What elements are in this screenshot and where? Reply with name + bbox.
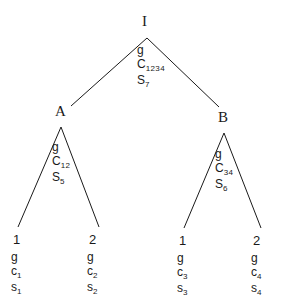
leaf-3-gene-label: g — [177, 251, 188, 265]
leaf-labels-2: g c2 s2 — [87, 250, 98, 296]
leaf-number-3: 1 — [179, 234, 186, 247]
a-gene-label: g — [52, 140, 70, 154]
root-gene-label: g — [137, 43, 165, 57]
leaf-2-gene-label: g — [87, 250, 98, 264]
b-c-label: C34 — [215, 161, 233, 177]
leaf-1-gene-label: g — [11, 250, 22, 264]
leaf-labels-4: g c4 s4 — [251, 251, 262, 297]
leaf-1-s-label: s1 — [11, 280, 22, 296]
leaf-labels-1: g c1 s1 — [11, 250, 22, 296]
leaf-2-s-label: s2 — [87, 280, 98, 296]
leaf-number-4: 2 — [253, 234, 260, 247]
edge-root-to-a — [71, 38, 147, 106]
root-c-label: C1234 — [137, 57, 165, 73]
b-gene-label: g — [215, 147, 233, 161]
branch-labels-a: g C12 S5 — [52, 140, 70, 186]
leaf-4-gene-label: g — [251, 251, 262, 265]
leaf-1-c-label: c1 — [11, 264, 22, 280]
b-s-label: S6 — [215, 177, 233, 193]
leaf-3-s-label: s3 — [177, 281, 188, 297]
leaf-number-2: 2 — [89, 233, 96, 246]
leaf-number-1: 1 — [13, 233, 20, 246]
leaf-labels-3: g c3 s3 — [177, 251, 188, 297]
branch-labels-b: g C34 S6 — [215, 147, 233, 193]
branch-labels-root: g C1234 S7 — [137, 43, 165, 89]
leaf-2-c-label: c2 — [87, 264, 98, 280]
a-s-label: S5 — [52, 170, 70, 186]
phylogenetic-tree-diagram: I g C1234 S7 A g C12 S5 B g C34 S6 1 g c… — [0, 0, 284, 304]
leaf-3-c-label: c3 — [177, 265, 188, 281]
leaf-4-c-label: c4 — [251, 265, 262, 281]
root-s-label: S7 — [137, 73, 165, 89]
node-label-a: A — [55, 104, 66, 119]
node-label-b: B — [218, 110, 228, 125]
node-label-root: I — [142, 14, 147, 29]
a-c-label: C12 — [52, 154, 70, 170]
leaf-4-s-label: s4 — [251, 281, 262, 297]
